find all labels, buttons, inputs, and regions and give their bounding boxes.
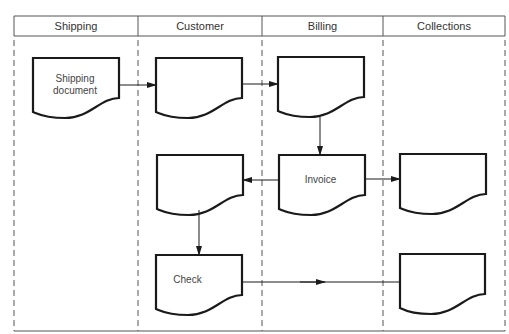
lane-header-billing: Billing: [262, 17, 383, 36]
label-line-2: document: [40, 85, 110, 97]
document-customer-1: [156, 58, 242, 118]
invoice-label: Invoice: [283, 174, 358, 186]
document-collections-2: [400, 254, 485, 314]
document-customer-2: [157, 155, 243, 215]
check-label: Check: [160, 274, 215, 286]
lane-header-customer: Customer: [138, 17, 262, 36]
label-line-1: Shipping: [40, 73, 110, 85]
lane-header-shipping: Shipping: [14, 17, 138, 36]
lane-header-collections: Collections: [383, 17, 505, 36]
document-collections-1: [400, 154, 486, 214]
swimlane-diagram: [0, 0, 509, 334]
shipping-document-label: Shipping document: [40, 73, 110, 97]
document-billing-1: [278, 57, 364, 117]
